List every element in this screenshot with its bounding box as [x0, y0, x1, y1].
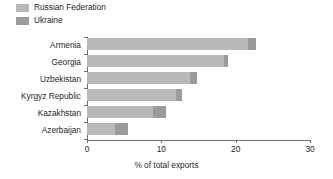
bar-segment-russian-federation-uzbekistan	[87, 72, 190, 84]
table-row	[87, 38, 256, 50]
category-axis-labels: Armenia Georgia Uzbekistan Kyrgyz Republ…	[0, 37, 84, 140]
bar-segment-russian-federation-kyrgyz-republic	[87, 89, 176, 101]
category-label-kyrgyz-republic: Kyrgyz Republic	[21, 91, 81, 101]
bar-chart: Russian Federation Ukraine Armenia Georg…	[0, 0, 333, 179]
legend-label-ukraine: Ukraine	[34, 16, 63, 25]
bar-segment-russian-federation-georgia	[87, 55, 224, 67]
category-label-kazakhstan: Kazakhstan	[38, 108, 81, 118]
bar-segment-ukraine-kazakhstan	[153, 106, 166, 118]
table-row	[87, 72, 197, 84]
legend-swatch-russian-federation	[16, 4, 29, 12]
x-axis-label-0: 0	[85, 144, 90, 154]
table-row	[87, 106, 166, 118]
category-label-armenia: Armenia	[50, 40, 81, 50]
x-axis-tick-10	[161, 140, 162, 143]
x-axis-title: % of total exports	[0, 160, 333, 170]
bar-segment-russian-federation-azerbaijan	[87, 123, 115, 135]
x-axis-tick-30	[310, 140, 311, 143]
legend-swatch-ukraine	[16, 17, 29, 25]
x-axis-line	[87, 140, 310, 141]
bar-segment-ukraine-kyrgyz-republic	[176, 89, 182, 101]
legend-label-russian-federation: Russian Federation	[34, 3, 106, 12]
table-row	[87, 89, 182, 101]
x-axis-tick-20	[236, 140, 237, 143]
category-label-azerbaijan: Azerbaijan	[42, 125, 81, 135]
table-row	[87, 123, 128, 135]
legend-item-ukraine: Ukraine	[16, 15, 106, 26]
bar-segment-ukraine-georgia	[224, 55, 229, 67]
bar-segment-ukraine-azerbaijan	[115, 123, 128, 135]
plot-area: 0 10 20 30	[87, 37, 310, 140]
bar-segment-russian-federation-armenia	[87, 38, 248, 50]
x-axis-label-30: 30	[305, 144, 314, 154]
category-label-uzbekistan: Uzbekistan	[40, 74, 81, 84]
table-row	[87, 55, 228, 67]
bar-segment-russian-federation-kazakhstan	[87, 106, 153, 118]
legend-item-russian-federation: Russian Federation	[16, 2, 106, 13]
x-axis-label-20: 20	[231, 144, 240, 154]
bar-segment-ukraine-uzbekistan	[190, 72, 197, 84]
bar-segment-ukraine-armenia	[248, 38, 256, 50]
x-axis-label-10: 10	[157, 144, 166, 154]
category-label-georgia: Georgia	[51, 57, 81, 67]
chart-legend: Russian Federation Ukraine	[16, 2, 106, 28]
x-axis-tick-0	[87, 140, 88, 143]
